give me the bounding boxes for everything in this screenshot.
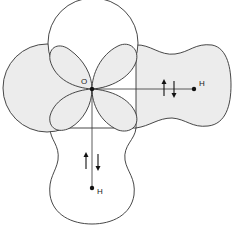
right-bonding-lobe xyxy=(136,45,231,128)
hydrogen-right-label: H xyxy=(199,79,205,88)
hydrogen-bottom-label: H xyxy=(97,187,103,196)
oxygen-nucleus xyxy=(90,87,94,91)
orbital-diagram: O H H xyxy=(0,0,241,232)
petal-lower-right xyxy=(92,89,137,131)
bottom-bonding-lobe xyxy=(50,128,136,224)
oxygen-label: O xyxy=(81,77,87,86)
hydrogen-right-nucleus xyxy=(192,87,196,91)
hydrogen-bottom-nucleus xyxy=(90,186,94,190)
